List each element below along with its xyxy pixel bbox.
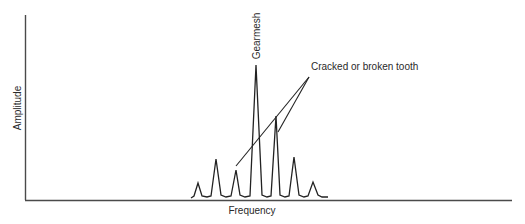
y-axis-label: Amplitude [12,85,23,130]
leader-line-left-sideband [236,77,309,166]
fault-annotation-label: Cracked or broken tooth [311,61,418,72]
leader-line-right-sideband [278,77,309,132]
gearmesh-label: Gearmesh [251,13,262,60]
x-axis-label: Frequency [228,205,275,216]
gear-spectrum-diagram: Amplitude Frequency Gearmesh Cracked or … [0,0,525,224]
spectrum-trace [191,65,328,198]
